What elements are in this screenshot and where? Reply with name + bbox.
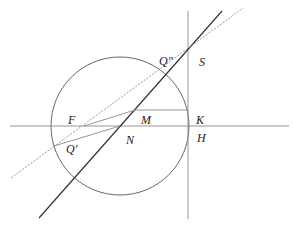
point-label: K	[195, 113, 205, 127]
point-label: Q"	[159, 54, 174, 68]
point-label: H	[196, 131, 207, 145]
point-label: N	[125, 133, 135, 147]
point-label: F	[67, 113, 76, 127]
segment-qprime-n	[54, 126, 120, 146]
geometry-diagram: Q"SFMKNHQ'	[0, 0, 295, 226]
solid-diagonal-line	[39, 11, 222, 218]
point-label: M	[140, 113, 152, 127]
point-label: S	[199, 55, 205, 69]
point-label: Q'	[66, 142, 78, 156]
dashed-diagonal-line	[11, 8, 243, 178]
